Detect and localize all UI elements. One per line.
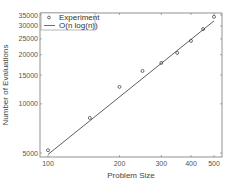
x-tick-label: 400 <box>185 160 197 167</box>
y-tick-label: 20000 <box>19 51 39 58</box>
x-tick-label: 500 <box>208 160 220 167</box>
legend: Experiment O(n log(n)) <box>41 13 100 30</box>
y-tick-label: 25000 <box>19 35 39 42</box>
y-tick-label: 10000 <box>19 100 39 107</box>
legend-label-fit: O(n log(n)) <box>59 21 98 30</box>
y-tick-label: 5000 <box>22 150 38 157</box>
y-tick-label: 15000 <box>19 72 39 79</box>
x-axis-title: Problem Size <box>107 171 155 180</box>
y-axis-title: Number of Evaluations <box>1 45 10 126</box>
y-tick-label: 30000 <box>19 22 39 29</box>
y-tick-label: 35000 <box>19 12 39 19</box>
plot-area <box>40 13 222 157</box>
x-tick-label: 300 <box>155 160 167 167</box>
x-tick-label: 100 <box>42 160 54 167</box>
x-tick-label: 200 <box>114 160 126 167</box>
chart: 5000100001500020000250003000035000 10020… <box>0 0 235 182</box>
